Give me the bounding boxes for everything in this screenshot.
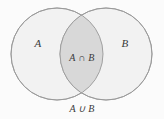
venn-diagram: A B A ∩ B A ∪ B: [0, 0, 164, 119]
set-b-label: B: [122, 38, 129, 49]
set-a-label: A: [35, 38, 42, 49]
intersection-label: A ∩ B: [69, 53, 94, 63]
union-caption: A ∪ B: [69, 104, 94, 114]
